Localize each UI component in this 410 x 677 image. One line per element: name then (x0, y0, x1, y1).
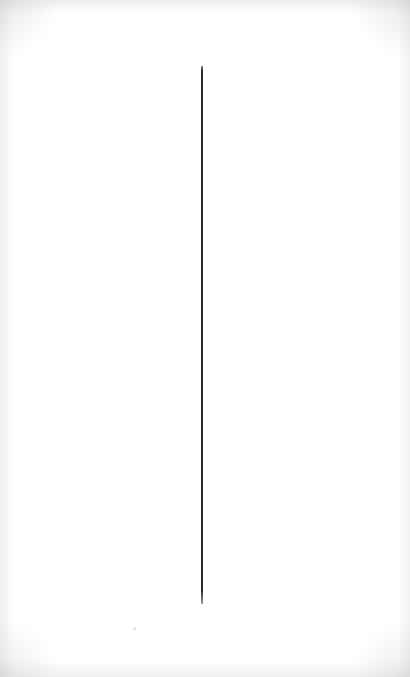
scan-corner-bottom-right (352, 619, 410, 677)
scan-corner-top-left (0, 0, 58, 58)
vertical-rule (201, 66, 203, 604)
scan-edge-shadow (0, 0, 410, 677)
paper-speck (133, 627, 136, 630)
scan-corner-bottom-left (0, 619, 58, 677)
page-canvas (0, 0, 410, 677)
scan-corner-top-right (352, 0, 410, 58)
